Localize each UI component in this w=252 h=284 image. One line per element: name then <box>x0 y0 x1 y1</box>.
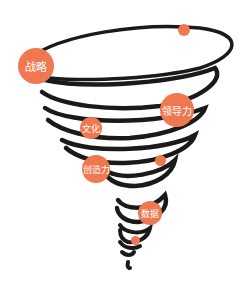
accent-dot-top <box>178 24 190 36</box>
node-data-label: 数据 <box>141 207 159 220</box>
accent-dot-low <box>131 236 140 245</box>
node-data: 数据 <box>138 201 162 225</box>
spiral-ring-9 <box>122 252 134 255</box>
node-leadership-label: 领导力 <box>162 103 192 118</box>
node-strategy: 战略 <box>18 48 54 84</box>
tornado-graphic <box>0 0 252 284</box>
node-culture-label: 文化 <box>82 122 100 135</box>
node-strategy-label: 战略 <box>25 58 47 74</box>
node-creativity: 创造力 <box>82 155 110 183</box>
accent-dot-mid <box>155 155 166 166</box>
node-creativity-label: 创造力 <box>83 163 110 176</box>
spiral-tail <box>128 262 130 268</box>
node-culture: 文化 <box>80 117 102 139</box>
node-leadership: 领导力 <box>160 93 194 127</box>
